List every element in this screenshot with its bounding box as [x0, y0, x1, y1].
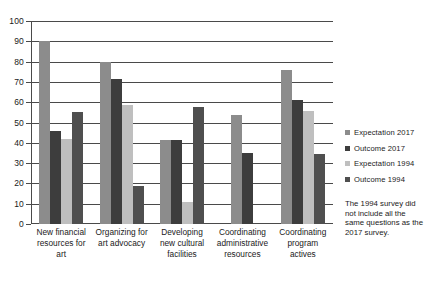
- bar: [171, 140, 182, 224]
- y-axis-tick-label: 70: [14, 77, 24, 87]
- x-axis-category-label: Coordinating program actives: [273, 227, 333, 260]
- bar-group: [152, 21, 212, 224]
- chart-annotation-note: The 1994 survey did not include all the …: [345, 199, 425, 237]
- y-axis-tick-label: 50: [14, 118, 24, 128]
- y-axis-tick-label: 0: [19, 219, 24, 229]
- x-axis-category-label: New financial resources for art: [31, 227, 91, 260]
- bar-group: [273, 21, 333, 224]
- bar: [72, 112, 83, 224]
- bar: [242, 153, 253, 224]
- bar-group-bars: [273, 21, 333, 224]
- bar: [39, 41, 50, 224]
- legend-swatch-icon: [345, 146, 350, 151]
- legend-item-label: Outcome 2017: [354, 144, 405, 153]
- bar: [182, 202, 193, 224]
- bar-group-bars: [31, 21, 91, 224]
- plot-area: 0102030405060708090100: [31, 21, 333, 224]
- bar-group-bars: [212, 21, 272, 224]
- bar: [160, 140, 171, 224]
- legend-item[interactable]: Outcome 1994: [345, 175, 430, 184]
- x-axis-category-label: Developing new cultural facilities: [152, 227, 212, 260]
- bar: [133, 186, 144, 224]
- legend-item[interactable]: Expectation 2017: [345, 128, 430, 137]
- bar: [193, 107, 204, 224]
- y-axis-tick-label: 10: [14, 199, 24, 209]
- y-axis-tick: [26, 224, 31, 225]
- y-axis-tick-label: 100: [9, 16, 24, 26]
- bar: [303, 111, 314, 224]
- bar: [292, 100, 303, 224]
- bar: [111, 79, 122, 224]
- bar: [122, 105, 133, 224]
- bar-group: [31, 21, 91, 224]
- legend-item-label: Expectation 2017: [354, 128, 414, 137]
- y-axis-tick-label: 30: [14, 158, 24, 168]
- bar: [281, 70, 292, 224]
- y-axis-tick-label: 90: [14, 36, 24, 46]
- y-axis-tick-label: 20: [14, 178, 24, 188]
- bar-group-bars: [91, 21, 151, 224]
- bar-group: [91, 21, 151, 224]
- legend-item-label: Outcome 1994: [354, 175, 405, 184]
- bar: [61, 139, 72, 224]
- legend-item[interactable]: Outcome 2017: [345, 144, 430, 153]
- legend-swatch-icon: [345, 161, 350, 166]
- x-axis-category-label: Coordinating administrative resources: [212, 227, 272, 260]
- legend-swatch-icon: [345, 177, 350, 182]
- bar: [314, 154, 325, 224]
- legend-item[interactable]: Expectation 1994: [345, 159, 430, 168]
- bar-group-bars: [152, 21, 212, 224]
- x-axis-category-labels: New financial resources for artOrganizin…: [31, 227, 333, 260]
- y-axis-tick-label: 60: [14, 97, 24, 107]
- bar: [50, 131, 61, 224]
- legend-swatch-icon: [345, 130, 350, 135]
- bar: [100, 62, 111, 224]
- y-axis-tick-label: 40: [14, 138, 24, 148]
- bar-chart: 0102030405060708090100 New financial res…: [0, 0, 430, 300]
- y-axis-tick-label: 80: [14, 57, 24, 67]
- bar: [231, 115, 242, 224]
- bar-group: [212, 21, 272, 224]
- legend: Expectation 2017Outcome 2017Expectation …: [345, 128, 430, 190]
- legend-item-label: Expectation 1994: [354, 159, 414, 168]
- bar-groups: [31, 21, 333, 224]
- x-axis-category-label: Organizing for art advocacy: [91, 227, 151, 260]
